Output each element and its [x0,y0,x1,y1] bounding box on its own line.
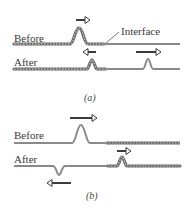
part-b-after-thick-rope [108,157,180,166]
part-a-before-label: Before [14,33,44,44]
part-a-after-label: After [14,57,37,68]
part-a-incident-arrow [76,17,90,24]
part-b-before-label: Before [14,130,44,141]
part-b-transmitted-arrow [117,148,131,155]
part-b-after-label: After [14,154,37,165]
interface-leader-line [106,32,119,43]
part-a-caption: (a) [84,93,96,103]
part-b-caption: (b) [86,191,98,201]
part-b-reflected-arrow [47,180,71,187]
part-b-after-thin-rope [14,166,108,175]
part-b-incident-arrow [70,115,97,122]
part-b [14,115,180,187]
part-a-transmitted-arrow [136,49,161,56]
part-a-after-thin-rope [106,59,180,69]
interface-label: Interface [121,26,160,37]
part-a-reflected-arrow [83,49,96,56]
